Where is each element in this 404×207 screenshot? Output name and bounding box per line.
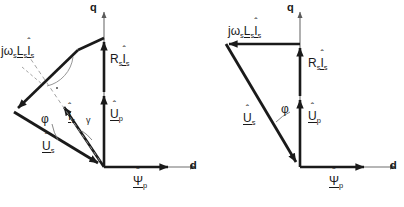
left-label-rs-is: RsˆIs	[110, 53, 130, 66]
left-jwls-j: jω	[1, 44, 13, 58]
right-psi-symbol: ˆΨ	[329, 175, 339, 188]
figure-root: q d jωsLsˆIs RsˆIs ˆUp ˆUs ˆIs ˆΨp φ γ q…	[0, 0, 404, 207]
left-is-sub: s	[71, 116, 75, 125]
hat-icon: ˆ	[45, 133, 48, 143]
diagram-canvas	[0, 0, 404, 207]
right-angle-phi: φ	[281, 103, 289, 115]
left-psi-symbol: ˆΨ	[133, 175, 143, 188]
left-up-U: ˆU	[110, 108, 119, 121]
hat-icon: ˆ	[113, 101, 116, 111]
left-psi-sub: p	[143, 181, 147, 190]
left-jwls-sub1: s	[13, 51, 17, 60]
right-jwls-sub1: s	[240, 31, 244, 40]
left-us-sub: s	[51, 146, 55, 155]
left-jwls-leader-line	[22, 67, 42, 84]
left-up-sub: p	[119, 114, 123, 123]
right-label-psi-p: ˆΨp	[329, 175, 343, 188]
right-d-axis-label: d	[390, 160, 397, 171]
hat-icon: ˆ	[332, 168, 335, 178]
left-angle-gamma: γ	[86, 116, 91, 125]
left-d-axis-label: d	[190, 160, 197, 171]
right-jwls-j: jω	[228, 24, 240, 38]
left-right-angle-dot	[56, 87, 58, 89]
left-vector-jwls-is	[18, 50, 78, 108]
right-label-u-p: ˆUp	[308, 110, 321, 123]
right-label-rs-is: RsˆIs	[308, 57, 328, 70]
hat-icon: ˆ	[246, 105, 249, 115]
right-us-sub: s	[252, 118, 256, 127]
right-label-u-s: ˆUs	[243, 112, 255, 125]
right-psi-sub: p	[339, 181, 343, 190]
left-right-angle-arc	[47, 57, 73, 86]
left-rs-R: R	[110, 52, 119, 66]
left-label-u-s: ˆUs	[42, 140, 54, 153]
left-angle-phi: φ	[41, 113, 49, 125]
hat-icon: ˆ	[254, 18, 257, 28]
right-label-jwls-is: jωsLsˆIs	[228, 25, 261, 38]
left-segment-apex-to-rs-head	[78, 38, 104, 50]
left-us-U: ˆU	[42, 140, 51, 153]
left-q-axis-label: q	[90, 2, 97, 13]
left-rs-sub2: s	[126, 59, 130, 68]
right-jwls-sub3: s	[258, 31, 262, 40]
right-rs-R: R	[308, 56, 317, 70]
right-q-axis-label: q	[287, 2, 294, 13]
right-up-sub: p	[317, 116, 321, 125]
hat-icon: ˆ	[320, 50, 323, 60]
hat-icon: ˆ	[27, 38, 30, 48]
right-us-U: ˆU	[243, 112, 252, 125]
hat-icon: ˆ	[122, 46, 125, 56]
hat-icon: ˆ	[311, 103, 314, 113]
left-label-i-s: ˆIs	[68, 110, 75, 123]
left-label-jwls-is: jωsLsˆIs	[1, 45, 34, 58]
left-label-u-p: ˆUp	[110, 108, 123, 121]
hat-icon: ˆ	[68, 103, 71, 113]
right-rs-sub2: s	[324, 63, 328, 72]
left-label-psi-p: ˆΨp	[133, 175, 147, 188]
hat-icon: ˆ	[136, 168, 139, 178]
right-up-U: ˆU	[308, 110, 317, 123]
left-jwls-sub3: s	[31, 51, 35, 60]
